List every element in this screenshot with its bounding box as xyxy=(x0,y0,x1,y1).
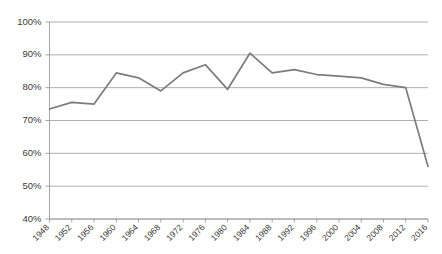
y-axis-tick-label: 90% xyxy=(22,48,42,59)
y-axis-tick-label: 100% xyxy=(17,16,42,27)
line-chart: 40%50%60%70%80%90%100% 19481952195619601… xyxy=(0,0,442,254)
y-axis-tick-label: 80% xyxy=(22,81,42,92)
y-axis-tick-label: 70% xyxy=(22,114,42,125)
y-axis-tick-label: 60% xyxy=(22,147,42,158)
y-axis-tick-label: 50% xyxy=(22,180,42,191)
chart-canvas: 40%50%60%70%80%90%100% 19481952195619601… xyxy=(0,0,442,254)
chart-background xyxy=(0,0,442,254)
y-axis-tick-label: 40% xyxy=(22,213,42,224)
